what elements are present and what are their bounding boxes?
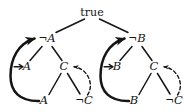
node-not-a-top: ¬A: [38, 33, 55, 45]
edge-not-b-to-b: [120, 47, 132, 61]
node-not-c-bottom-right-var: C: [174, 93, 183, 107]
edge-root-to-not-b: [100, 19, 129, 33]
node-not-c-bottom-left-var: C: [84, 93, 93, 107]
edge-not-a-to-a: [30, 47, 42, 61]
edge-c-to-b-bottom: [139, 74, 151, 95]
node-b-mid-right: B: [113, 61, 121, 73]
negation-symbol: ¬: [38, 32, 47, 44]
proof-tree-figure: true ¬A A C A ¬C ¬B B C B ¬C: [0, 0, 184, 112]
negation-symbol: ¬: [165, 94, 174, 106]
node-not-b-top-var: B: [137, 31, 145, 45]
edge-c-to-not-c: [68, 74, 81, 95]
negation-symbol: ¬: [75, 94, 84, 106]
edge-c-to-a-bottom: [49, 74, 61, 95]
node-c-mid-left: C: [60, 61, 69, 73]
node-not-c-bottom-right: ¬C: [165, 95, 183, 107]
node-c-mid-right: C: [150, 61, 159, 73]
node-a-mid-left: A: [23, 61, 31, 73]
edge-left-dashed-backedge: [74, 67, 90, 95]
edge-root-to-not-a: [56, 19, 85, 33]
node-root-true: true: [80, 7, 104, 18]
node-not-c-bottom-left: ¬C: [75, 95, 93, 107]
node-not-a-top-var: A: [47, 31, 55, 45]
node-a-bottom-left: A: [40, 95, 48, 107]
node-not-b-top: ¬B: [128, 33, 145, 45]
edge-right-dashed-backedge: [164, 67, 180, 95]
negation-symbol: ¬: [128, 32, 137, 44]
edge-c-to-not-c-right: [158, 74, 171, 95]
node-b-bottom-right: B: [130, 95, 138, 107]
